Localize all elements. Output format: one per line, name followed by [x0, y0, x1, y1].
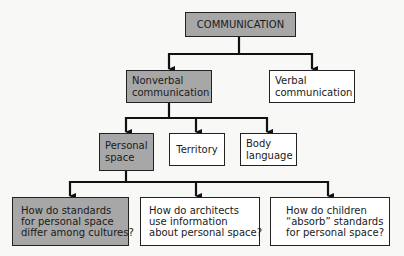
node-question-architects: How do architects use information about …: [140, 197, 260, 246]
node-label: How do standards: [21, 205, 120, 216]
node-label: for personal space: [21, 216, 120, 227]
node-label: for personal space?: [286, 227, 381, 238]
node-label: “absorb” standards: [286, 216, 381, 227]
node-territory: Territory: [169, 133, 225, 166]
node-label: differ among cultures?: [21, 227, 120, 238]
node-body-language: Body language: [240, 133, 297, 166]
node-question-cultures: How do standards for personal space diff…: [12, 197, 129, 246]
node-nonverbal-communication: Nonverbal communication: [126, 70, 212, 103]
node-label: communication: [132, 87, 206, 99]
node-label: about personal space?: [149, 227, 251, 238]
node-label: Personal: [105, 140, 148, 152]
node-label: COMMUNICATION: [197, 19, 284, 31]
node-question-children: How do children “absorb” standards for p…: [270, 197, 390, 246]
node-label: How do children: [286, 205, 381, 216]
node-communication: COMMUNICATION: [185, 12, 296, 37]
node-label: Territory: [176, 144, 217, 156]
node-personal-space: Personal space: [99, 133, 154, 171]
node-label: How do architects: [149, 205, 251, 216]
node-label: use information: [149, 216, 251, 227]
node-label: Verbal: [275, 75, 349, 87]
node-label: language: [246, 150, 291, 162]
node-verbal-communication: Verbal communication: [269, 70, 355, 103]
node-label: Nonverbal: [132, 75, 206, 87]
node-label: space: [105, 152, 148, 164]
node-label: Body: [246, 138, 291, 150]
node-label: communication: [275, 87, 349, 99]
